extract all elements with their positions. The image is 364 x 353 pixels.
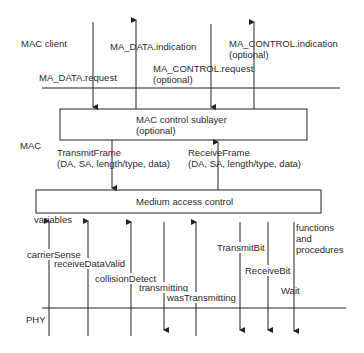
mac-control-sublayer-optional: (optional) (136, 125, 227, 136)
ma-control-request-line1: MA_CONTROL.request (153, 63, 253, 74)
mac-control-sublayer-label: MAC control sublayer (optional) (136, 114, 227, 136)
layer-label-mac: MAC (20, 140, 41, 151)
medium-access-control-label: Medium access control (136, 196, 233, 207)
ma-data-indication-label: MA_DATA.indication (110, 41, 196, 52)
signal-transmit-bit: TransmitBit (216, 242, 266, 253)
receive-frame-label: ReceiveFrame (DA, SA, length/type, data) (188, 147, 301, 169)
ma-control-indication-line2: (optional) (229, 49, 338, 60)
ma-control-indication-label: MA_CONTROL.indication (optional) (229, 38, 338, 60)
layer-label-phy: PHY (26, 314, 46, 325)
mac-control-sublayer-title: MAC control sublayer (136, 114, 227, 125)
receive-frame-params: (DA, SA, length/type, data) (188, 158, 301, 169)
signal-receive-data-valid: receiveDataValid (53, 258, 126, 269)
receive-frame-title: ReceiveFrame (188, 147, 301, 158)
layer-label-mac-client: MAC client (21, 38, 67, 49)
signal-was-transmitting: wasTransmitting (166, 292, 237, 303)
functions-heading-line3: procedures (296, 244, 344, 255)
ma-data-request-label: MA_DATA.request (39, 72, 117, 83)
functions-heading-line1: functions (296, 222, 344, 233)
signal-receive-bit: ReceiveBit (244, 265, 291, 276)
signal-wait: Wait (281, 285, 300, 296)
variables-heading: variables (34, 214, 72, 225)
functions-heading-line2: and (296, 233, 344, 244)
ma-control-request-label: MA_CONTROL.request (optional) (153, 63, 253, 85)
ma-control-indication-line1: MA_CONTROL.indication (229, 38, 338, 49)
transmit-frame-params: (DA, SA, length/type, data) (57, 158, 170, 169)
ma-control-request-line2: (optional) (153, 74, 253, 85)
transmit-frame-title: TransmitFrame (57, 147, 170, 158)
transmit-frame-label: TransmitFrame (DA, SA, length/type, data… (57, 147, 170, 169)
functions-heading: functions and procedures (296, 222, 344, 255)
